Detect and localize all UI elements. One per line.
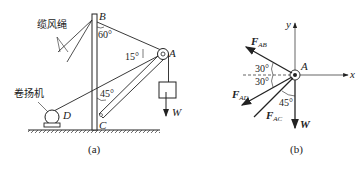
angle-lower: 30°: [255, 76, 269, 87]
diagram-svg: 缆风绳 W 卷扬机 D B A C 60° 15° 45° (a): [0, 0, 360, 169]
caption-a: (a): [88, 143, 101, 156]
weight-box: [159, 82, 176, 98]
label-a: A: [168, 47, 176, 59]
pole: [92, 14, 97, 130]
label-point-a: A: [300, 60, 308, 72]
label-b: B: [99, 10, 106, 22]
label-c: C: [99, 119, 107, 131]
axis-y-label: y: [285, 18, 291, 30]
angle-b: 60°: [98, 29, 112, 40]
guy-rope-label: 缆风绳: [37, 18, 67, 30]
angle-upper: 30°: [255, 63, 269, 74]
angle-a: 15°: [125, 51, 139, 62]
label-fad: FAD: [231, 88, 249, 102]
winch-label: 卷扬机: [14, 87, 44, 99]
label-d: D: [62, 109, 71, 121]
angle-c: 45°: [100, 88, 114, 99]
label-fac: FAC: [265, 109, 283, 123]
statics-diagram: 缆风绳 W 卷扬机 D B A C 60° 15° 45° (a): [0, 0, 360, 169]
figure-a: 缆风绳 W 卷扬机 D B A C 60° 15° 45° (a): [14, 10, 182, 156]
angle-w-ac: 45°: [279, 97, 293, 108]
label-w-b: W: [300, 118, 311, 130]
figure-b: x y A FAB FAD FAC W 30° 30° 45° (b): [231, 18, 355, 156]
label-w: W: [172, 106, 182, 118]
caption-b: (b): [290, 143, 303, 156]
label-fab: FAB: [250, 35, 268, 49]
axis-x-label: x: [349, 68, 355, 80]
winch-drum: [45, 110, 59, 124]
